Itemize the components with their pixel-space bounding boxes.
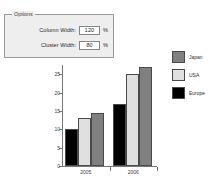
plot-area: 0510152025 20052006 bbox=[62, 65, 157, 167]
x-tick-mark bbox=[110, 167, 111, 171]
legend-item[interactable]: Japan bbox=[172, 48, 218, 65]
options-panel: Options Column Width: 120 % Cluster Widt… bbox=[4, 14, 114, 58]
bar[interactable] bbox=[113, 104, 126, 166]
legend-swatch bbox=[172, 51, 185, 63]
legend-label: Japan bbox=[189, 54, 203, 60]
legend-item[interactable]: USA bbox=[172, 66, 218, 83]
cluster-width-input[interactable]: 80 bbox=[79, 41, 100, 50]
bar[interactable] bbox=[65, 129, 78, 166]
chart-legend: JapanUSAEurope bbox=[172, 48, 218, 102]
y-tick-label: 10 bbox=[54, 127, 60, 132]
cluster-width-row: Cluster Width: 80 % bbox=[5, 39, 113, 51]
column-width-label: Column Width: bbox=[39, 27, 76, 33]
cluster-width-label: Cluster Width: bbox=[41, 42, 76, 48]
legend-label: Europe bbox=[189, 90, 205, 96]
column-width-row: Column Width: 120 % bbox=[5, 24, 113, 36]
x-axis-label: 2005 bbox=[80, 169, 91, 175]
x-axis-label: 2006 bbox=[128, 169, 139, 175]
y-tick-label: 20 bbox=[54, 90, 60, 95]
cluster-width-unit: % bbox=[103, 42, 109, 48]
bar[interactable] bbox=[91, 113, 104, 166]
column-width-unit: % bbox=[103, 27, 109, 33]
bar[interactable] bbox=[139, 67, 152, 166]
bar[interactable] bbox=[78, 118, 91, 166]
y-tick-label: 0 bbox=[57, 164, 60, 169]
legend-label: USA bbox=[189, 72, 199, 78]
legend-swatch bbox=[172, 87, 185, 99]
legend-item[interactable]: Europe bbox=[172, 84, 218, 101]
y-tick-label: 5 bbox=[57, 145, 60, 150]
x-tick-mark bbox=[157, 167, 158, 171]
y-tick-label: 15 bbox=[54, 108, 60, 113]
y-axis bbox=[62, 65, 63, 167]
bar[interactable] bbox=[126, 74, 139, 166]
bar-cluster bbox=[113, 65, 153, 166]
bar-cluster bbox=[65, 65, 105, 166]
y-tick-label: 25 bbox=[54, 72, 60, 77]
options-panel-title: Options bbox=[12, 11, 35, 18]
column-width-input[interactable]: 120 bbox=[79, 26, 100, 35]
legend-swatch bbox=[172, 69, 185, 81]
